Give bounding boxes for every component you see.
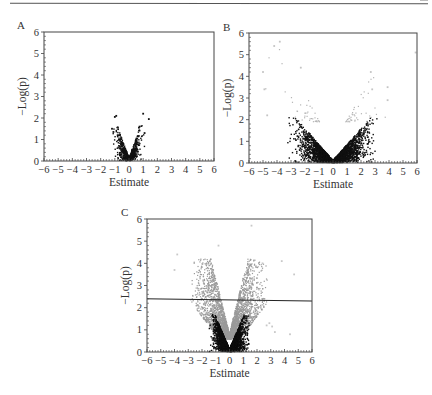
y-tick-label: 5 bbox=[137, 236, 142, 247]
panel-label-a: A bbox=[17, 19, 25, 31]
series-light bbox=[190, 259, 267, 340]
x-tick-label: 3 bbox=[268, 355, 273, 366]
scatter-points bbox=[174, 225, 295, 352]
x-tick-label: −5 bbox=[155, 355, 166, 366]
y-tick-label: 1 bbox=[137, 324, 142, 335]
x-tick-label: 2 bbox=[254, 355, 259, 366]
x-tick-label: −4 bbox=[169, 355, 181, 366]
x-tick-label: 0 bbox=[227, 355, 232, 366]
x-tick-label: −1 bbox=[210, 355, 221, 366]
y-axis-label: −Log(p) bbox=[119, 266, 132, 305]
y-tick-label: 4 bbox=[137, 258, 143, 269]
x-tick-label: 6 bbox=[309, 355, 314, 366]
panel-label-b: B bbox=[223, 21, 230, 33]
significance-threshold-line bbox=[147, 299, 312, 301]
x-tick-label: 5 bbox=[296, 355, 301, 366]
y-tick-label: 2 bbox=[137, 302, 142, 313]
x-axis-label: Estimate bbox=[209, 367, 249, 379]
panel-label-c: C bbox=[121, 206, 128, 218]
y-tick-label: 6 bbox=[137, 214, 142, 225]
x-tick-label: −2 bbox=[196, 355, 207, 366]
x-tick-label: −3 bbox=[183, 355, 194, 366]
x-tick-label: 1 bbox=[241, 355, 246, 366]
volcano-plot-c: 0123456−6−5−4−3−2−10123456Estimate−Log(p… bbox=[0, 0, 432, 395]
x-tick-label: −6 bbox=[141, 355, 152, 366]
x-tick-label: 4 bbox=[282, 355, 288, 366]
y-tick-label: 3 bbox=[137, 280, 142, 291]
